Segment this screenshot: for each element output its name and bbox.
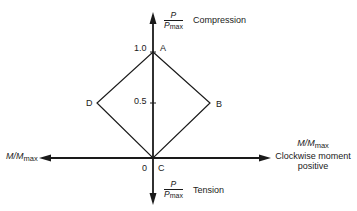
horizontal-axis-right-label: M/Mmax Clockwise moment positive [270, 138, 356, 171]
clockwise-caption-line1: Clockwise moment [270, 151, 356, 161]
vertical-axis-top-fraction: P Pmax [164, 11, 183, 31]
point-label-c: C [158, 163, 165, 173]
vertical-axis-bottom-fraction: P Pmax [164, 180, 183, 200]
fraction-denominator: Pmax [164, 21, 183, 31]
tick-label-0: 0 [142, 163, 147, 173]
clockwise-caption-line2: positive [270, 161, 356, 171]
tick-label-1.0: 1.0 [134, 43, 147, 53]
vertical-axis-up-arrow-icon [150, 12, 157, 24]
tension-label: Tension [193, 185, 224, 195]
point-label-b: B [216, 99, 222, 109]
point-label-d: D [86, 98, 93, 108]
point-label-a: A [160, 43, 166, 53]
tick-label-0.5: 0.5 [134, 96, 147, 106]
vertical-axis-down-arrow-icon [150, 193, 157, 205]
horizontal-axis-left-label: M/Mmax [6, 151, 38, 164]
compression-label: Compression [193, 15, 246, 25]
fraction-denominator-bottom: Pmax [164, 190, 183, 200]
horizontal-axis-left-arrow-icon [39, 155, 51, 162]
